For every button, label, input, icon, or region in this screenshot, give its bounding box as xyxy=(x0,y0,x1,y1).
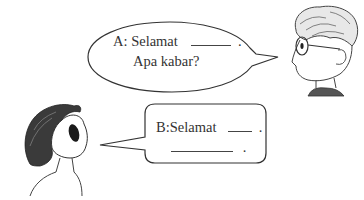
bubble-b-blank-2[interactable] xyxy=(171,140,233,152)
girl-character-icon xyxy=(25,105,87,197)
bubble-b-line2: . xyxy=(171,139,246,156)
bubble-b-greeting: B:Selamat xyxy=(156,119,216,135)
bubble-b-period-2: . xyxy=(243,139,247,155)
bubble-a-line2: Apa kabar? xyxy=(133,53,199,70)
bubble-a-period: . xyxy=(238,33,242,49)
bubble-a-greeting: A: Selamat xyxy=(113,33,178,49)
boy-character-icon xyxy=(292,6,358,96)
bubble-b-line1: B:Selamat . xyxy=(156,119,262,136)
bubble-a-line1: A: Selamat . xyxy=(113,33,242,50)
bubble-a-blank-1[interactable] xyxy=(191,34,231,46)
bubble-b-period-1: . xyxy=(259,119,263,135)
bubble-b-blank-1[interactable] xyxy=(228,120,252,132)
comic-scene xyxy=(0,0,364,200)
